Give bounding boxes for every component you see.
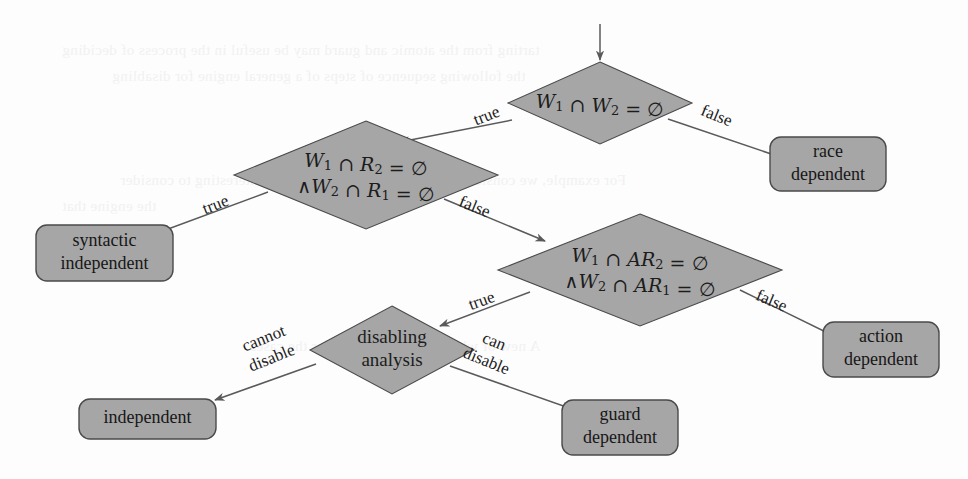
result-independent-line-1: independent — [104, 407, 192, 427]
decision-w1-r2-and-w2-r1-disjoint-shape — [234, 121, 498, 229]
svg-text:false: false — [753, 286, 790, 316]
svg-text:true: true — [471, 102, 502, 129]
edge-d4-can-disable-to-guard-dependent — [450, 366, 572, 409]
result-syntactic-independent-line-2: independent — [61, 253, 149, 273]
svg-text:false: false — [698, 101, 735, 131]
edge-d2-true-to-syntactic-independent-label: true — [200, 191, 231, 218]
decision-disabling-analysis-line-2: analysis — [361, 349, 422, 370]
result-guard-dependent-line-1: guard — [600, 404, 641, 424]
flowchart-svg: W1 ∩ W2 = ∅W1 ∩ R2 = ∅∧W2 ∩ R1 = ∅W1 ∩ A… — [0, 0, 968, 479]
decision-disabling-analysis-line-1: disabling — [357, 326, 427, 347]
edge-d2-false-to-d3-label: false — [456, 192, 493, 222]
result-action-dependent-line-1: action — [859, 326, 903, 346]
result-syntactic-independent: syntacticindependent — [36, 225, 173, 281]
decision-w1-r2-and-w2-r1-disjoint: W1 ∩ R2 = ∅∧W2 ∩ R1 = ∅ — [234, 121, 498, 229]
svg-text:false: false — [456, 192, 493, 222]
svg-text:true: true — [200, 191, 231, 218]
edge-d4-cannot-disable-to-independent-label: cannotdisable — [238, 320, 298, 375]
edge-d4-can-disable-to-guard-dependent-label: candisable — [461, 323, 521, 378]
svg-text:true: true — [466, 287, 497, 314]
result-guard-dependent-line-2: dependent — [583, 427, 657, 447]
result-race-dependent-line-1: race — [813, 141, 843, 161]
decision-disabling-analysis: disablinganalysis — [310, 306, 474, 394]
result-independent: independent — [79, 399, 216, 439]
result-race-dependent-line-2: dependent — [791, 164, 865, 184]
decision-w1-w2-disjoint: W1 ∩ W2 = ∅ — [508, 62, 692, 144]
decision-w1-ar2-and-w2-ar1-disjoint: W1 ∩ AR2 = ∅∧W2 ∩ AR1 = ∅ — [498, 214, 782, 326]
edge-d3-false-to-action-dependent-label: false — [753, 286, 790, 316]
edge-d3-true-to-disabling-analysis-label: true — [466, 287, 497, 314]
result-action-dependent: actiondependent — [823, 322, 939, 377]
edge-d1-true-to-d2 — [400, 120, 512, 142]
result-race-dependent: racedependent — [770, 137, 886, 191]
decision-w1-ar2-and-w2-ar1-disjoint-shape — [498, 214, 782, 326]
result-guard-dependent: guarddependent — [562, 400, 678, 455]
edge-d1-true-to-d2-label: true — [471, 102, 502, 129]
edge-d1-false-to-race-dependent-label: false — [698, 101, 735, 131]
result-action-dependent-line-2: dependent — [844, 349, 918, 369]
figure-canvas: tarting from the atomic and guard may be… — [0, 0, 968, 479]
result-syntactic-independent-line-1: syntactic — [73, 230, 137, 250]
